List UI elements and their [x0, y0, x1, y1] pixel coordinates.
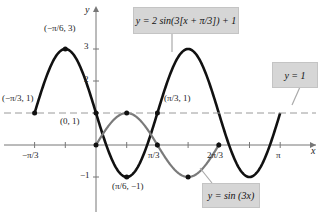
data-point: [155, 111, 160, 116]
data-point: [216, 143, 221, 148]
data-point: [124, 111, 129, 116]
y-tick-2: 2: [84, 75, 89, 84]
label-transformed-function: y = 2 sin(3[x + π/3]) + 1: [133, 7, 239, 34]
x-tick-2pi-3: 2π/3: [207, 151, 223, 160]
data-point: [94, 111, 99, 116]
label-sin-3x: y = sin (3x): [202, 183, 260, 208]
x-tick-pi-3: π/3: [148, 151, 160, 160]
data-point: [32, 111, 37, 116]
y-tick-neg1: −1: [80, 171, 90, 180]
data-point: [63, 47, 68, 52]
data-point: [124, 175, 129, 180]
callout-pointer: [200, 168, 212, 183]
y-axis-arrow-icon: [93, 6, 99, 12]
point-label-neg-pi-3-1: (−π/3, 1): [2, 94, 34, 103]
label-y-equals-1: y = 1: [272, 62, 318, 88]
point-label-neg-pi-6-3: (−π/6, 3): [44, 24, 76, 33]
x-tick-neg-pi-3: −π/3: [22, 151, 39, 160]
data-point: [94, 143, 99, 148]
data-point: [155, 143, 160, 148]
point-label-pi-3-1: (π/3, 1): [164, 94, 191, 103]
x-axis-label: x: [311, 146, 315, 156]
x-tick-pi: π: [276, 151, 281, 160]
y-tick-3: 3: [84, 42, 89, 51]
point-label-0-1: (0, 1): [60, 117, 80, 126]
point-label-pi-6-neg1: (π/6, −1): [112, 182, 144, 191]
y-axis-label: y: [85, 5, 89, 15]
callout-pointer: [292, 87, 300, 105]
data-point: [186, 175, 191, 180]
graph: y = 2 sin(3[x + π/3]) + 1 y = 1 y = sin …: [0, 0, 323, 213]
